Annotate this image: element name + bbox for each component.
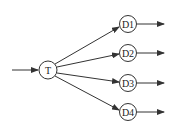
node-d3: D3 (120, 75, 137, 92)
edge-t-d2 (57, 54, 119, 67)
node-t: T (39, 61, 57, 79)
node-d4-label: D4 (122, 107, 134, 118)
node-t-label: T (45, 65, 51, 76)
edge-t-d1 (55, 27, 119, 64)
node-d2-label: D2 (122, 48, 134, 59)
edge-t-d3 (57, 73, 119, 82)
node-d4: D4 (120, 104, 137, 121)
node-d2: D2 (120, 45, 137, 62)
flow-diagram: T D1 D2 D3 D4 (0, 0, 176, 132)
node-d1: D1 (120, 16, 137, 33)
node-d1-label: D1 (122, 19, 134, 30)
node-d3-label: D3 (122, 78, 134, 89)
